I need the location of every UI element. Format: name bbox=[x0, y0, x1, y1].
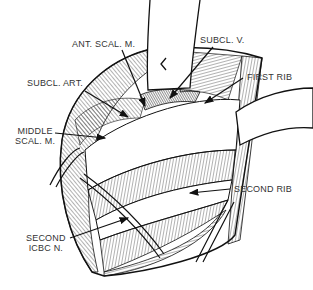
label-middle-scal-m-line2: SCAL. M. bbox=[15, 136, 55, 146]
label-subcl-art: SUBCL. ART. bbox=[27, 78, 83, 88]
label-ant-scal-m: ANT. SCAL. M. bbox=[72, 39, 135, 49]
label-middle-scal-m-line1: MIDDLE bbox=[15, 126, 55, 136]
label-middle-scal-m: MIDDLE SCAL. M. bbox=[15, 126, 55, 146]
label-subcl-v: SUBCL. V. bbox=[200, 35, 245, 45]
label-second-icbc-n-line2: ICBC N. bbox=[26, 243, 66, 253]
label-second-icbc-n-line1: SECOND bbox=[26, 233, 66, 243]
label-second-rib: SECOND RIB bbox=[234, 184, 292, 194]
label-first-rib: FIRST RIB bbox=[247, 72, 292, 82]
label-second-icbc-n: SECOND ICBC N. bbox=[26, 233, 66, 253]
